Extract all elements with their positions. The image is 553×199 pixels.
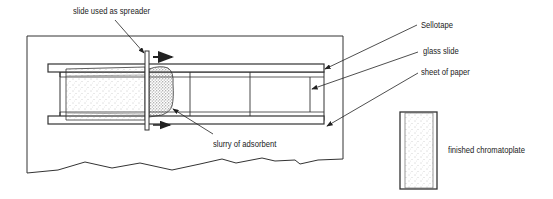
spreader-slide bbox=[145, 51, 149, 130]
label-sheet-of-paper: sheet of paper bbox=[421, 67, 470, 77]
label-finished-chromatoplate: finished chromatoplate bbox=[448, 145, 525, 155]
label-sellotape: Sellotape bbox=[421, 20, 453, 30]
label-spreader: slide used as spreader bbox=[73, 6, 150, 16]
label-slurry: slurry of adsorbent bbox=[213, 139, 276, 149]
slurry-of-adsorbent bbox=[149, 67, 173, 117]
label-glass-slide: glass slide bbox=[423, 46, 459, 56]
chromatoplate-diagram bbox=[0, 0, 553, 199]
